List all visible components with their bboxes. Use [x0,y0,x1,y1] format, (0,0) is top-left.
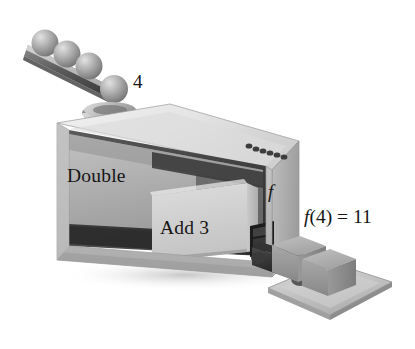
input-sphere-4 [100,75,128,103]
input-sphere-3 [76,53,103,80]
label-function-name: f [268,182,273,201]
box-left-edge-shade [57,123,69,260]
label-result-equation: f(4) = 11 [304,207,372,227]
machine-illustration-svg [0,0,415,349]
label-input-value: 4 [133,72,143,91]
label-operation-double: Double [67,166,126,186]
label-result-rest: (4) = 11 [309,206,371,227]
function-machine-figure: Double Add 3 4 f f(4) = 11 [0,0,415,349]
label-operation-add3: Add 3 [160,218,209,238]
